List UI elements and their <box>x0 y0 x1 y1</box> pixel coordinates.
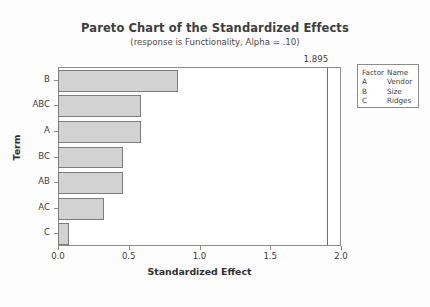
bar-row <box>59 172 340 194</box>
reference-line-label: 1.895 <box>268 54 328 64</box>
y-axis-tick-label: AB <box>0 176 50 186</box>
x-axis-tick-label: 2.0 <box>326 251 356 261</box>
legend-factor: B <box>362 87 387 96</box>
legend-name: Ridges <box>387 96 414 105</box>
x-axis-tick <box>270 246 271 250</box>
bar-ab <box>58 172 123 194</box>
y-axis-tick <box>54 131 58 132</box>
bar-row <box>59 121 340 143</box>
legend-factor: A <box>362 77 387 86</box>
y-axis-tick-label: B <box>0 74 50 84</box>
legend-header-factor: Factor <box>362 68 387 77</box>
x-axis-tick <box>341 246 342 250</box>
bar-abc <box>58 95 141 117</box>
bar-row <box>59 70 340 92</box>
bar-bc <box>58 147 123 169</box>
x-axis-tick-label: 0.5 <box>114 251 144 261</box>
plot-area <box>58 67 341 246</box>
bar-row <box>59 147 340 169</box>
pareto-chart: Pareto Chart of the Standardized Effects… <box>0 0 430 307</box>
reference-line <box>327 68 328 245</box>
y-axis-tick <box>54 157 58 158</box>
x-axis-tick-label: 1.0 <box>185 251 215 261</box>
bar-row <box>59 223 340 245</box>
bar-row <box>59 198 340 220</box>
y-axis-tick <box>54 233 58 234</box>
y-axis-tick-label: ABC <box>0 99 50 109</box>
legend-name: Vendor <box>387 77 414 86</box>
chart-title: Pareto Chart of the Standardized Effects <box>0 21 430 35</box>
x-axis-tick <box>129 246 130 250</box>
bar-ac <box>58 198 104 220</box>
bar-b <box>58 70 178 92</box>
y-axis-tick-label: AC <box>0 202 50 212</box>
legend-row: AVendor <box>362 77 414 86</box>
legend-row: CRidges <box>362 96 414 105</box>
legend-factor: C <box>362 96 387 105</box>
y-axis-tick <box>54 80 58 81</box>
y-axis-tick <box>54 182 58 183</box>
x-axis-tick-label: 0.0 <box>43 251 73 261</box>
legend-header-row: Factor Name <box>362 68 414 77</box>
bar-a <box>58 121 141 143</box>
x-axis-tick-label: 1.5 <box>255 251 285 261</box>
plot-inner <box>59 68 340 245</box>
bar-row <box>59 95 340 117</box>
y-axis-tick <box>54 105 58 106</box>
y-axis-tick-label: BC <box>0 151 50 161</box>
legend-header-name: Name <box>387 68 414 77</box>
y-axis-tick <box>54 208 58 209</box>
x-axis-title: Standardized Effect <box>58 266 341 277</box>
legend-row: BSize <box>362 87 414 96</box>
x-axis-tick <box>58 246 59 250</box>
legend-name: Size <box>387 87 414 96</box>
bar-c <box>58 223 69 245</box>
y-axis-tick-label: C <box>0 227 50 237</box>
legend: Factor Name AVendorBSizeCRidges <box>357 64 419 108</box>
y-axis-tick-label: A <box>0 125 50 135</box>
chart-subtitle: (response is Functionality, Alpha = .10) <box>0 37 430 47</box>
x-axis-tick <box>200 246 201 250</box>
